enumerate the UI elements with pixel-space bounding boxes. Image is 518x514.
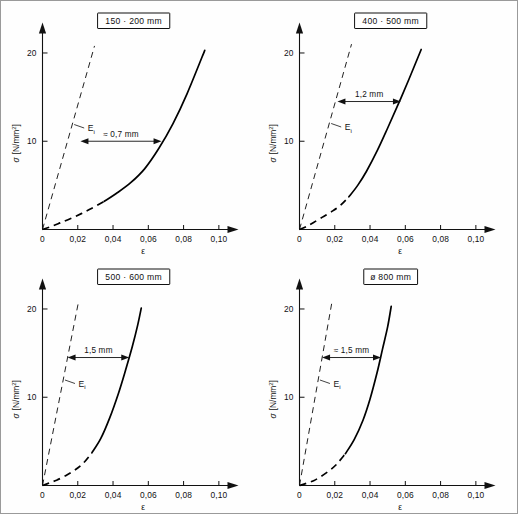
x-tick-label: 0,06	[140, 234, 157, 244]
y-axis-label: σ[N/mm2]	[11, 124, 21, 162]
annotation-label: 1,2 mm	[355, 90, 384, 99]
annotation-arrowhead-left	[68, 355, 76, 361]
figure-frame: 00,020,040,060,080,10ε1020σ[N/mm2]150 · …	[0, 0, 518, 514]
x-tick-label: 0,08	[432, 490, 449, 500]
x-tick-label: 0	[297, 490, 302, 500]
x-tick-label: 0,02	[326, 490, 343, 500]
x-tick-label: 0,04	[362, 490, 379, 500]
tangent-modulus-line	[300, 301, 333, 485]
annotation-arrowhead-left	[337, 99, 345, 105]
x-tick-label: 0,06	[140, 490, 157, 500]
stress-strain-curve-solid-segment	[104, 50, 205, 201]
tangent-modulus-label: Ei	[78, 379, 85, 391]
tangent-leader-line	[320, 380, 330, 384]
chart-svg-3: 00,020,040,060,080,10ε1020σ[N/mm2]ø 800 …	[258, 257, 517, 514]
x-tick-label: 0	[40, 234, 45, 244]
tangent-modulus-label: Ei	[88, 123, 95, 135]
chart-svg-0: 00,020,040,060,080,10ε1020σ[N/mm2]150 · …	[1, 1, 260, 258]
x-axis-arrowhead	[228, 226, 239, 233]
tangent-modulus-label: Ei	[345, 122, 352, 134]
x-tick-label: 0,08	[432, 234, 449, 244]
stress-strain-curve-dashed-segment	[43, 453, 92, 486]
tangent-leader-line	[74, 125, 84, 129]
y-tick-label: 20	[284, 304, 294, 314]
x-tick-label: 0,10	[468, 234, 485, 244]
tangent-modulus-line	[43, 46, 95, 230]
x-axis-arrowhead	[485, 226, 496, 233]
x-tick-label: 0,10	[211, 234, 228, 244]
stress-strain-curve-solid-segment	[92, 308, 141, 453]
y-tick-label: 10	[27, 392, 37, 402]
x-tick-label: 0,04	[105, 490, 122, 500]
x-tick-label: 0,06	[397, 234, 414, 244]
x-tick-label: 0,10	[468, 490, 485, 500]
chart-svg-2: 00,020,040,060,080,10ε1020σ[N/mm2]500 · …	[1, 257, 260, 514]
x-tick-label: 0,04	[362, 234, 379, 244]
y-tick-label: 10	[27, 136, 37, 146]
x-tick-label: 0	[40, 490, 45, 500]
panel-title-label: 500 · 600 mm	[105, 272, 162, 282]
x-tick-label: 0,08	[175, 490, 192, 500]
annotation-arrowhead-left	[322, 355, 330, 361]
stress-strain-curve-solid-segment	[345, 306, 391, 453]
x-tick-label: 0,02	[69, 234, 86, 244]
x-axis-label: ε	[141, 246, 145, 256]
chart-panel-400-500: 00,020,040,060,080,10ε1020σ[N/mm2]400 · …	[258, 1, 517, 258]
tangent-modulus-line	[43, 301, 79, 485]
y-tick-label: 10	[284, 136, 294, 146]
y-tick-label: 10	[284, 392, 294, 402]
stress-strain-curve-dashed-segment	[300, 197, 349, 230]
stress-strain-curve-dashed-segment	[300, 454, 346, 486]
tangent-leader-line	[65, 380, 75, 384]
x-axis-label: ε	[398, 246, 402, 256]
stress-strain-curve-solid-segment	[349, 49, 421, 196]
y-axis-arrowhead	[296, 279, 303, 290]
annotation-arrowhead-right	[154, 138, 162, 144]
x-axis-arrowhead	[485, 482, 496, 489]
annotation-label: ≈ 0,7 mm	[103, 130, 139, 139]
chart-panel-diameter-800: 00,020,040,060,080,10ε1020σ[N/mm2]ø 800 …	[258, 257, 517, 514]
y-axis-label: σ[N/mm2]	[268, 380, 278, 418]
y-tick-label: 20	[27, 48, 37, 58]
chart-panel-500-600: 00,020,040,060,080,10ε1020σ[N/mm2]500 · …	[1, 257, 260, 514]
y-axis-arrowhead	[39, 279, 46, 290]
x-axis-arrowhead	[228, 482, 239, 489]
annotation-label: 1,5 mm	[84, 346, 113, 355]
tangent-leader-line	[331, 123, 341, 127]
x-tick-label: 0	[297, 234, 302, 244]
y-axis-label: σ[N/mm2]	[11, 380, 21, 418]
panel-title-label: ø 800 mm	[370, 272, 411, 282]
x-tick-label: 0,06	[397, 490, 414, 500]
x-tick-label: 0,02	[326, 234, 343, 244]
annotation-label: ≈ 1,5 mm	[334, 346, 370, 355]
panel-title-label: 150 · 200 mm	[105, 16, 162, 26]
y-axis-label: σ[N/mm2]	[268, 124, 278, 162]
x-tick-label: 0,04	[105, 234, 122, 244]
x-axis-label: ε	[141, 502, 145, 512]
tangent-modulus-label: Ei	[333, 379, 340, 391]
x-tick-label: 0,08	[175, 234, 192, 244]
x-axis-label: ε	[398, 502, 402, 512]
panel-title-label: 400 · 500 mm	[362, 16, 419, 26]
y-axis-arrowhead	[296, 23, 303, 34]
annotation-arrowhead-left	[80, 138, 88, 144]
chart-panel-150-200: 00,020,040,060,080,10ε1020σ[N/mm2]150 · …	[1, 1, 260, 258]
y-tick-label: 20	[284, 48, 294, 58]
y-axis-arrowhead	[39, 23, 46, 34]
x-tick-label: 0,02	[69, 490, 86, 500]
x-tick-label: 0,10	[211, 490, 228, 500]
chart-svg-1: 00,020,040,060,080,10ε1020σ[N/mm2]400 · …	[258, 1, 517, 258]
stress-strain-curve-dashed-segment	[43, 201, 105, 229]
y-tick-label: 20	[27, 304, 37, 314]
